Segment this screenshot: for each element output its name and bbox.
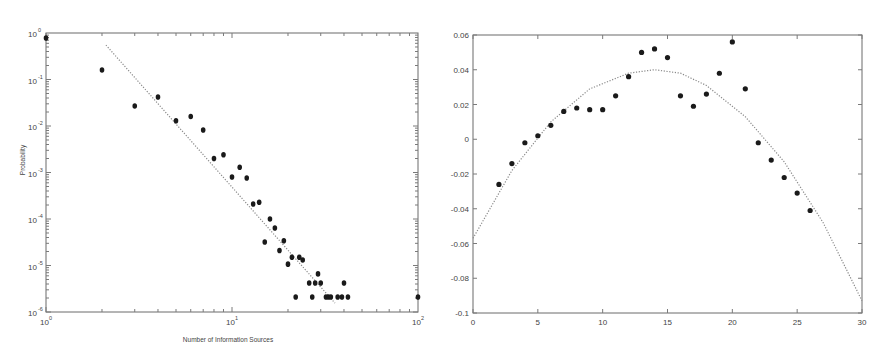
data-point — [44, 35, 49, 41]
data-point — [346, 294, 351, 300]
data-point — [230, 174, 235, 180]
y-axis-title: Probability — [19, 144, 27, 175]
data-point — [293, 294, 298, 300]
data-point — [717, 71, 722, 76]
data-point — [730, 39, 735, 44]
x-tick-exponent: 0 — [49, 315, 52, 321]
y-tick-label: 10 — [28, 309, 37, 318]
x-tick-label: 5 — [536, 318, 541, 327]
data-point — [416, 294, 421, 300]
y-tick-label: 0.02 — [453, 101, 469, 110]
data-point — [268, 216, 273, 222]
data-point — [251, 201, 256, 207]
data-point — [535, 133, 540, 138]
y-tick-exponent: -4 — [38, 213, 43, 219]
y-tick-label: 10 — [28, 123, 37, 132]
quadratic-fit-chart: 0510152025300.060.040.020-0.02-0.04-0.06… — [445, 0, 890, 353]
x-tick-label: 20 — [728, 318, 737, 327]
data-point — [665, 55, 670, 60]
data-point — [212, 156, 217, 162]
y-tick-exponent: -5 — [38, 260, 43, 266]
data-point — [561, 109, 566, 114]
data-point — [221, 152, 226, 158]
data-point — [307, 280, 312, 286]
data-point — [290, 255, 295, 261]
data-point — [639, 50, 644, 55]
y-tick-label: -0.06 — [451, 240, 470, 249]
y-tick-exponent: -6 — [38, 306, 43, 312]
data-point — [244, 175, 249, 181]
x-tick-exponent: 1 — [235, 315, 238, 321]
data-point — [808, 208, 813, 213]
x-tick-exponent: 2 — [421, 315, 424, 321]
y-tick-label: 10 — [28, 216, 37, 225]
data-point — [743, 86, 748, 91]
y-tick-label: 10 — [28, 170, 37, 179]
data-point — [174, 118, 179, 124]
data-point — [277, 248, 282, 254]
data-point — [262, 239, 267, 245]
data-point — [769, 158, 774, 163]
data-point — [156, 94, 161, 100]
data-point — [273, 225, 278, 231]
data-point — [313, 280, 318, 286]
data-point — [496, 182, 501, 187]
x-axis-title: Number of Information Sources — [183, 336, 274, 343]
fit-line — [106, 45, 335, 303]
data-point — [316, 271, 321, 277]
data-point — [652, 46, 657, 51]
fit-curve — [473, 70, 862, 301]
y-tick-label: 10 — [28, 77, 37, 86]
y-tick-label: 10 — [28, 263, 37, 272]
y-tick-label: 0.06 — [453, 31, 469, 40]
data-point — [286, 261, 291, 267]
data-point — [626, 74, 631, 79]
y-tick-label: 0 — [465, 135, 470, 144]
y-tick-exponent: -1 — [38, 74, 43, 80]
y-tick-exponent: -2 — [38, 120, 43, 126]
y-tick-exponent: 0 — [38, 27, 41, 33]
data-point — [237, 164, 242, 170]
y-tick-label: 10 — [28, 30, 37, 39]
data-point — [300, 257, 305, 263]
plot-frame — [46, 33, 418, 312]
data-point — [613, 93, 618, 98]
data-point — [548, 123, 553, 128]
data-point — [522, 140, 527, 145]
y-tick-label: -0.1 — [455, 309, 469, 318]
data-point — [342, 280, 347, 286]
data-point — [132, 103, 137, 109]
data-point — [678, 93, 683, 98]
data-point — [340, 294, 345, 300]
data-point — [335, 294, 340, 300]
data-point — [188, 114, 193, 120]
x-tick-label: 0 — [471, 318, 476, 327]
data-point — [691, 104, 696, 109]
y-tick-label: -0.08 — [451, 274, 470, 283]
plot-frame — [473, 35, 862, 313]
data-point — [795, 191, 800, 196]
data-point — [782, 175, 787, 180]
data-point — [704, 91, 709, 96]
y-tick-exponent: -3 — [38, 167, 43, 173]
y-tick-label: 0.04 — [453, 66, 469, 75]
y-tick-label: -0.04 — [451, 205, 470, 214]
data-point — [509, 161, 514, 166]
data-point — [574, 105, 579, 110]
data-point — [600, 107, 605, 112]
y-tick-label: -0.02 — [451, 170, 470, 179]
data-point — [201, 127, 206, 133]
data-point — [282, 238, 287, 244]
x-tick-label: 25 — [793, 318, 802, 327]
quadratic-fit-plot: 0510152025300.060.040.020-0.02-0.04-0.06… — [445, 0, 890, 353]
data-point — [257, 199, 262, 205]
data-point — [756, 140, 761, 145]
data-point — [318, 280, 323, 286]
data-point — [310, 294, 315, 300]
data-point — [587, 107, 592, 112]
x-tick-label: 10 — [598, 318, 607, 327]
x-tick-label: 30 — [858, 318, 867, 327]
power-law-chart: 10010110210010-110-210-310-410-510-6Numb… — [0, 0, 445, 353]
x-tick-label: 15 — [663, 318, 672, 327]
data-point — [100, 67, 105, 73]
